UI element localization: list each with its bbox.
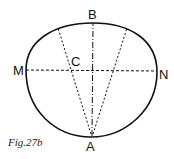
figure-caption: Fig.27b <box>7 136 43 148</box>
line-A-right <box>93 28 127 134</box>
diagram: B C M N A Fig.27b <box>0 0 174 159</box>
label-A: A <box>86 139 95 154</box>
label-C: C <box>71 54 80 69</box>
oval-outline <box>26 23 157 137</box>
line-MN <box>26 70 157 71</box>
line-A-left <box>58 28 91 134</box>
label-M: M <box>13 63 24 78</box>
label-N: N <box>159 67 168 82</box>
line-AB <box>92 23 93 136</box>
label-B: B <box>88 7 97 22</box>
